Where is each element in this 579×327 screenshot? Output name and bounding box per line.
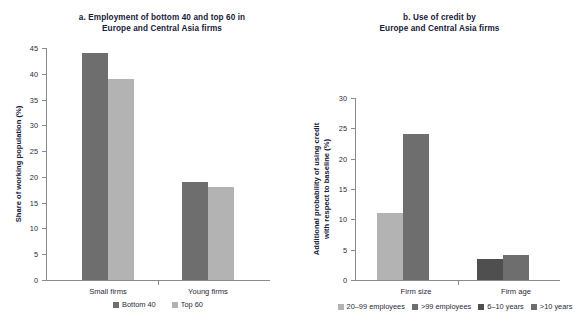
- panel-b-y-tick-mark: [351, 98, 355, 99]
- bar: [503, 255, 529, 280]
- panel-a-y-tick-label: 45: [12, 44, 38, 53]
- panel-b-y-tick-mark: [351, 128, 355, 129]
- panel-b: b. Use of credit by Europe and Central A…: [290, 0, 579, 327]
- panel-a-y-tick-label: 25: [12, 147, 38, 156]
- panel-a-title: a. Employment of bottom 40 and top 60 in…: [0, 12, 290, 34]
- panel-b-y-tick-mark: [351, 219, 355, 220]
- panel-a-y-tick-mark: [42, 125, 46, 126]
- bar: [182, 182, 208, 280]
- legend-swatch-icon: [113, 302, 119, 308]
- panel-a-y-tick-mark: [42, 100, 46, 101]
- panel-b-legend: 20–99 employees>99 employees6–10 years>1…: [340, 302, 570, 311]
- panel-a-y-tick-label: 30: [12, 121, 38, 130]
- panel-b-y-axis-line: [355, 98, 356, 280]
- panel-b-title: b. Use of credit by Europe and Central A…: [290, 12, 579, 34]
- panel-b-legend-label: 6–10 years: [487, 302, 524, 311]
- panel-b-legend-label: >10 years: [540, 302, 573, 311]
- panel-a: a. Employment of bottom 40 and top 60 in…: [0, 0, 290, 327]
- panel-a-y-tick-label: 20: [12, 172, 38, 181]
- panel-b-y-tick-label: 5: [321, 245, 347, 254]
- bar: [108, 79, 134, 280]
- panel-b-legend-label: >99 employees: [421, 302, 471, 311]
- panel-b-y-tick-mark: [351, 159, 355, 160]
- legend-swatch-icon: [531, 304, 537, 310]
- panel-a-y-tick-mark: [42, 228, 46, 229]
- panel-a-legend-label: Top 60: [181, 300, 203, 309]
- panel-b-y-tick-label: 0: [321, 276, 347, 285]
- panel-a-y-tick-mark: [42, 74, 46, 75]
- panel-b-y-tick-label: 20: [321, 154, 347, 163]
- panel-a-category-label: Small firms: [89, 287, 127, 296]
- panel-a-y-axis-label: Share of working population (%): [14, 48, 24, 280]
- panel-a-legend-label: Bottom 40: [122, 300, 156, 309]
- panel-b-plot-area: 302520151050Firm sizeFirm age: [355, 98, 560, 280]
- panel-a-title-line1: a. Employment of bottom 40 and top 60 in: [34, 12, 290, 23]
- panel-a-y-tick-mark: [42, 151, 46, 152]
- panel-a-y-tick-label: 40: [12, 69, 38, 78]
- bar: [403, 134, 429, 280]
- panel-b-legend-item[interactable]: 20–99 employees: [338, 302, 405, 311]
- panel-a-y-tick-label: 10: [12, 224, 38, 233]
- legend-swatch-icon: [338, 304, 344, 310]
- panel-b-y-tick-label: 30: [321, 94, 347, 103]
- panel-a-legend-item[interactable]: Bottom 40: [113, 300, 156, 309]
- panel-a-y-tick-mark: [42, 177, 46, 178]
- panel-b-y-tick-mark: [351, 250, 355, 251]
- panel-a-title-line2: Europe and Central Asia firms: [34, 23, 290, 34]
- panel-b-category-label: Firm age: [501, 287, 531, 296]
- panel-a-y-tick-label: 15: [12, 198, 38, 207]
- panel-b-legend-item[interactable]: >99 employees: [412, 302, 471, 311]
- panel-b-y-tick-mark: [351, 280, 355, 281]
- bar: [82, 53, 108, 280]
- legend-swatch-icon: [478, 304, 484, 310]
- panel-b-x-group-separator-tick: [458, 281, 459, 285]
- panel-a-y-axis-line: [46, 48, 47, 280]
- panel-b-y-tick-label: 10: [321, 215, 347, 224]
- panel-b-category-label: Firm size: [401, 287, 432, 296]
- panel-a-plot-area: 454035302520151050Small firmsYoung firms: [46, 48, 270, 280]
- panel-a-x-group-separator-tick: [158, 281, 159, 285]
- panel-b-y-tick-label: 15: [321, 185, 347, 194]
- panel-b-legend-item[interactable]: 6–10 years: [478, 302, 524, 311]
- panel-a-y-tick-mark: [42, 280, 46, 281]
- panel-a-y-tick-label: 5: [12, 250, 38, 259]
- panel-a-y-tick-mark: [42, 48, 46, 49]
- legend-swatch-icon: [412, 304, 418, 310]
- panel-b-y-tick-mark: [351, 189, 355, 190]
- panel-b-legend-label: 20–99 employees: [347, 302, 405, 311]
- panel-a-y-tick-label: 35: [12, 95, 38, 104]
- panel-b-title-line1: b. Use of credit by: [300, 12, 579, 23]
- bar: [377, 213, 403, 280]
- panel-a-category-label: Young firms: [188, 287, 228, 296]
- panel-a-legend: Bottom 40Top 60: [46, 300, 270, 309]
- figure-container: a. Employment of bottom 40 and top 60 in…: [0, 0, 579, 327]
- legend-swatch-icon: [172, 302, 178, 308]
- panel-a-y-tick-mark: [42, 254, 46, 255]
- panel-b-legend-item[interactable]: >10 years: [531, 302, 573, 311]
- panel-b-title-line2: Europe and Central Asia firms: [300, 23, 579, 34]
- bar: [477, 259, 503, 280]
- panel-a-y-tick-label: 0: [12, 276, 38, 285]
- panel-b-y-tick-label: 25: [321, 124, 347, 133]
- panel-a-y-tick-mark: [42, 203, 46, 204]
- bar: [208, 187, 234, 280]
- panel-a-legend-item[interactable]: Top 60: [172, 300, 203, 309]
